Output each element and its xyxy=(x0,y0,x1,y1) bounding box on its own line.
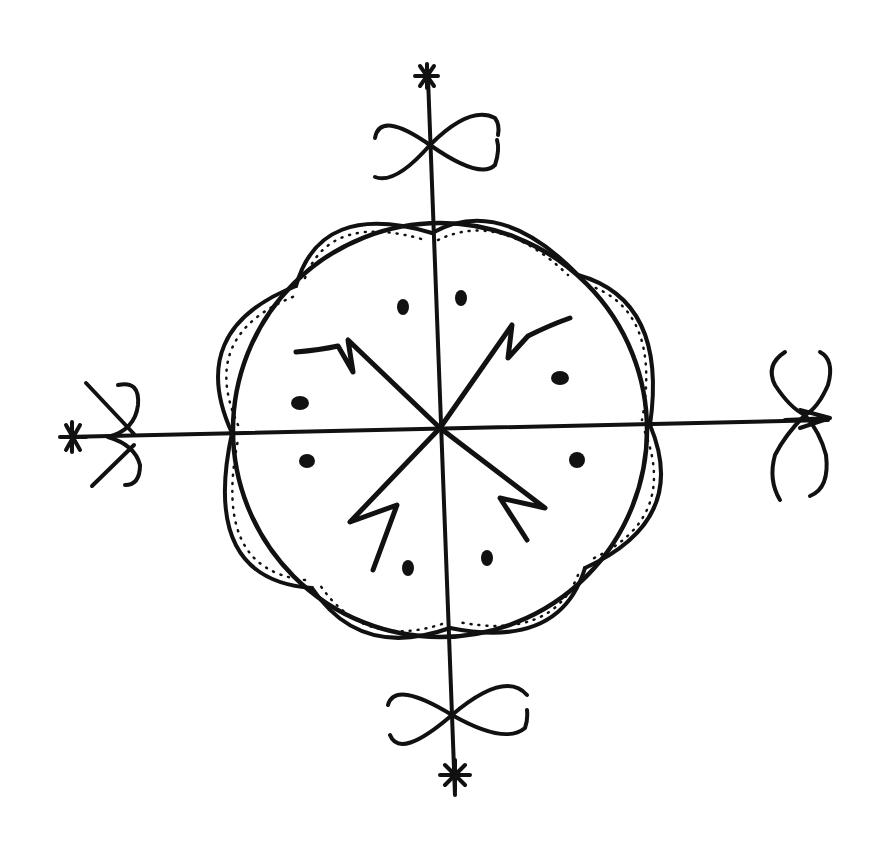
cross-axes xyxy=(65,78,828,795)
top-terminal xyxy=(375,64,499,178)
zigzag-rays xyxy=(296,318,570,570)
right-terminal xyxy=(772,352,831,500)
veve-symbol-drawing xyxy=(0,0,890,848)
symbol-svg xyxy=(0,0,890,848)
bottom-terminal xyxy=(388,686,527,790)
